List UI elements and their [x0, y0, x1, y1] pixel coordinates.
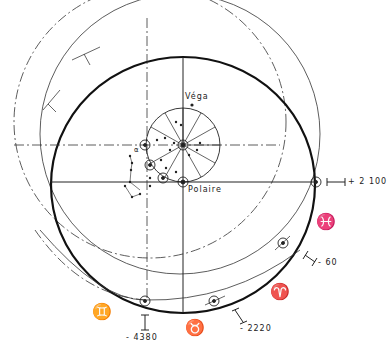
- gemini-icon: ♊: [92, 302, 112, 321]
- date-minus-60: - 60: [318, 258, 338, 267]
- dashdot-lower-arc: [35, 230, 145, 300]
- vega-label: Véga: [185, 92, 209, 101]
- date-minus-2220: - 2220: [240, 324, 272, 333]
- polaire-label: Polaire: [188, 185, 222, 194]
- thin-outer-circle: [40, 0, 320, 274]
- date-minus-4380: - 4380: [126, 333, 158, 342]
- taurus-icon: ♉: [185, 318, 205, 337]
- circled-markers: [140, 140, 321, 306]
- pisces-icon: ♓: [316, 212, 336, 231]
- alpha-label: α: [134, 146, 140, 154]
- date-plus-2100: + 2 100: [348, 177, 387, 186]
- aries-icon: ♈: [270, 282, 290, 301]
